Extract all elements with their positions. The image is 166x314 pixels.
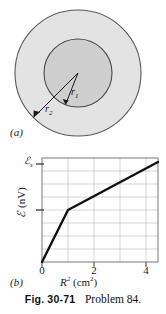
x-axis-unit-open: (cm [73, 276, 90, 288]
concentric-disks-diagram: r1 r2 [0, 0, 166, 145]
figure-caption: Fig. 30-71 Problem 84. [0, 293, 166, 305]
panel-a-label: (a) [10, 126, 23, 138]
figure-problem-text: Problem 84. [85, 293, 141, 305]
x-axis-unit-close: ) [94, 276, 98, 288]
y-axis-emf-s-label: ℰs [24, 155, 33, 169]
emf-s-subscript: s [30, 161, 33, 169]
panel-b-label: (b) [10, 276, 23, 288]
x-axis-symbol: R [60, 276, 67, 288]
x-axis-label: R2 (cm2) [60, 275, 97, 288]
y-axis-label: ℰ (nV) [15, 173, 28, 233]
x-axis-symbol-exponent: 2 [67, 275, 71, 283]
figure-container: r1 r2 (a) [0, 0, 166, 314]
figure-number: Fig. 30-71 [25, 293, 75, 305]
y-axis-symbol: ℰ [15, 211, 27, 218]
xtick-4: 4 [139, 264, 153, 276]
xtick-0: 0 [35, 264, 49, 276]
y-axis-unit: (nV) [15, 187, 27, 208]
